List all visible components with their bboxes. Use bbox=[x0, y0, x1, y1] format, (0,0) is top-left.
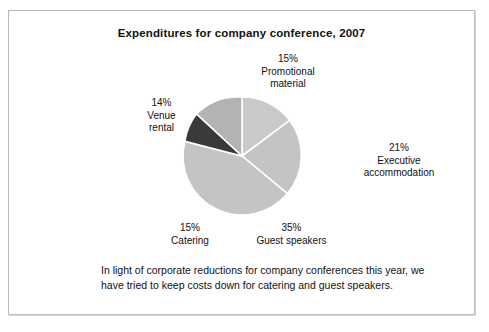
pie-label-catering: 15% Catering bbox=[145, 222, 235, 247]
pie-label-name-line2: material bbox=[233, 78, 343, 91]
pie-label-name-line2: rental bbox=[119, 122, 204, 135]
pie-label-percent: 21% bbox=[334, 142, 464, 155]
pie-label-guest-speakers: 35% Guest speakers bbox=[234, 222, 349, 247]
pie-label-name-line1: Guest speakers bbox=[234, 235, 349, 248]
pie-label-name-line2: accommodation bbox=[334, 167, 464, 180]
pie-label-name-line1: Venue bbox=[119, 110, 204, 123]
pie-label-percent: 14% bbox=[119, 97, 204, 110]
pie-label-percent: 35% bbox=[234, 222, 349, 235]
pie-label-percent: 15% bbox=[233, 53, 343, 66]
pie-label-venue-rental: 14% Venue rental bbox=[119, 97, 204, 135]
pie-label-name-line1: Catering bbox=[145, 235, 235, 248]
pie-label-name-line1: Promotional bbox=[233, 66, 343, 79]
pie-label-executive-accommodation: 21% Executive accommodation bbox=[334, 142, 464, 180]
figure-frame: Expenditures for company conference, 200… bbox=[8, 10, 475, 315]
pie-label-promotional-material: 15% Promotional material bbox=[233, 53, 343, 91]
pie-label-percent: 15% bbox=[145, 222, 235, 235]
pie-label-name-line1: Executive bbox=[334, 155, 464, 168]
figure-caption: In light of corporate reductions for com… bbox=[101, 263, 431, 292]
